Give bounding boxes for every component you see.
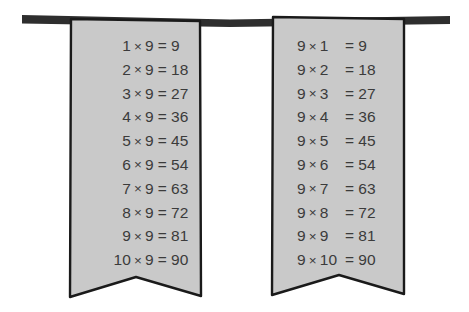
illustration-scene: 1×9=9 2×9=18 3×9=27 4×9=36 5×9=45 6×9=54…: [0, 0, 469, 312]
left-banner-shape: [70, 19, 201, 297]
banner-artwork: [0, 0, 469, 312]
right-banner-shape: [272, 17, 404, 295]
